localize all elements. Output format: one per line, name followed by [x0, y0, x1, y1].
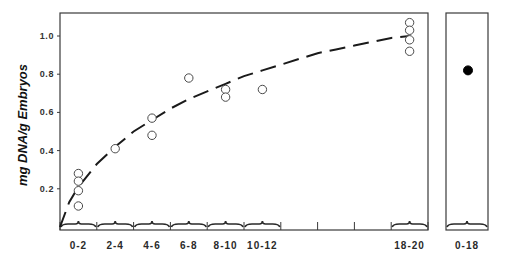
main-plot: 0.20.40.60.81.0 0-22-44-66-88-1010-1218-…: [40, 13, 428, 251]
open-circle-point: [111, 144, 119, 152]
brace-icon: [98, 221, 133, 227]
x-category-label: 10-12: [247, 240, 278, 251]
open-circle-point: [405, 18, 413, 26]
side-data-points: [464, 66, 473, 75]
side-interval-brace: [447, 221, 487, 227]
open-circle-point: [258, 85, 266, 93]
side-x-label: 0-18: [455, 240, 479, 251]
y-tick-label: 0.8: [40, 69, 54, 79]
open-circle-point: [405, 26, 413, 34]
dna-content-chart: mg DNA/g Embryos 0.20.40.60.81.0 0-22-44…: [0, 0, 509, 262]
main-plot-frame: [60, 13, 428, 230]
brace-icon: [392, 221, 427, 227]
y-tick-label: 1.0: [40, 31, 54, 41]
open-circle-point: [405, 36, 413, 44]
x-category-label: 18-20: [394, 240, 425, 251]
x-category-label: 4-6: [143, 240, 160, 251]
brace-icon: [208, 221, 243, 227]
fitted-curve-line: [60, 36, 410, 227]
filled-circle-point: [464, 66, 473, 75]
y-axis-title: mg DNA/g Embryos: [15, 64, 30, 186]
side-plot: 0-18: [446, 13, 488, 251]
y-axis-ticks: 0.20.40.60.81.0: [40, 31, 60, 194]
open-circle-point: [74, 187, 82, 195]
side-plot-frame: [446, 13, 488, 230]
brace-icon: [447, 221, 487, 227]
x-category-label: 0-2: [70, 240, 87, 251]
brace-icon: [245, 221, 280, 227]
y-tick-label: 0.2: [40, 184, 54, 194]
x-category-label: 2-4: [106, 240, 123, 251]
data-points: [74, 18, 414, 210]
open-circle-point: [148, 114, 156, 122]
open-circle-point: [74, 177, 82, 185]
open-circle-point: [148, 131, 156, 139]
open-circle-point: [185, 74, 193, 82]
open-circle-point: [405, 47, 413, 55]
x-category-label: 8-10: [214, 240, 238, 251]
open-circle-point: [74, 202, 82, 210]
x-axis-labels: 0-22-44-66-88-1010-1218-20: [70, 240, 425, 251]
brace-icon: [135, 221, 170, 227]
x-category-label: 6-8: [180, 240, 197, 251]
brace-icon: [61, 221, 96, 227]
brace-icon: [171, 221, 206, 227]
y-tick-label: 0.6: [40, 107, 54, 117]
open-circle-point: [221, 93, 229, 101]
y-tick-label: 0.4: [40, 146, 54, 156]
